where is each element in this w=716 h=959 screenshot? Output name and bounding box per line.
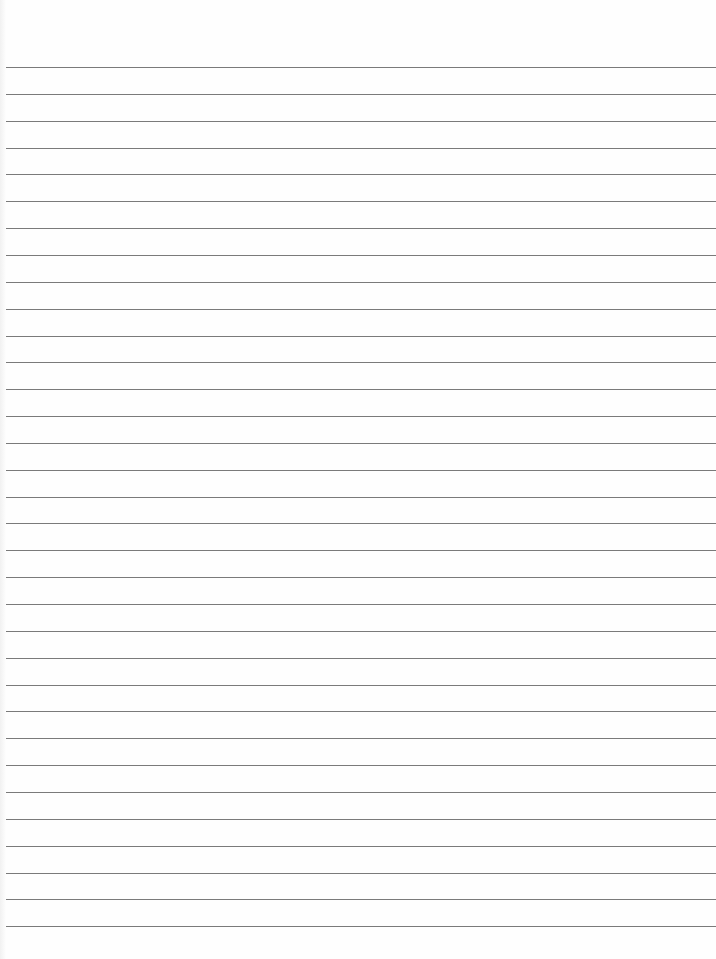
ruled-line — [6, 362, 716, 363]
paper-left-edge — [0, 0, 6, 959]
ruled-line — [6, 255, 716, 256]
ruled-line — [6, 416, 716, 417]
ruled-line — [6, 846, 716, 847]
ruled-line — [6, 711, 716, 712]
ruled-line — [6, 497, 716, 498]
ruled-line — [6, 765, 716, 766]
ruled-line — [6, 228, 716, 229]
ruled-line — [6, 631, 716, 632]
ruled-line — [6, 443, 716, 444]
ruled-line — [6, 792, 716, 793]
ruled-line — [6, 577, 716, 578]
ruled-line — [6, 121, 716, 122]
ruled-line — [6, 174, 716, 175]
ruled-line — [6, 470, 716, 471]
ruled-line — [6, 550, 716, 551]
ruled-line — [6, 523, 716, 524]
ruled-line — [6, 604, 716, 605]
ruled-line — [6, 685, 716, 686]
ruled-line — [6, 389, 716, 390]
ruled-line — [6, 282, 716, 283]
ruled-line — [6, 658, 716, 659]
ruled-line — [6, 336, 716, 337]
ruled-line — [6, 926, 716, 927]
ruled-line — [6, 67, 716, 68]
ruled-line — [6, 873, 716, 874]
ruled-line — [6, 94, 716, 95]
ruled-line — [6, 899, 716, 900]
ruled-line — [6, 819, 716, 820]
ruled-line — [6, 309, 716, 310]
ruled-line — [6, 201, 716, 202]
ruled-line — [6, 148, 716, 149]
ruled-line — [6, 738, 716, 739]
lined-paper-sheet — [0, 0, 716, 959]
